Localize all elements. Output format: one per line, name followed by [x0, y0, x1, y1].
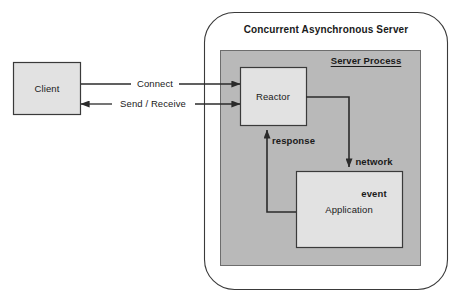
client-label: Client — [35, 84, 60, 95]
diagram-title: Concurrent Asynchronous Server — [244, 24, 409, 35]
reactor-label: Reactor — [256, 92, 290, 103]
send-receive-edge-label: Send / Receive — [120, 99, 186, 110]
connect-edge-label: Connect — [137, 79, 173, 90]
server-process-label: Server Process — [331, 56, 402, 67]
network-event-edge-label-line1: network — [355, 157, 392, 168]
diagram-canvas: Concurrent Asynchronous Server Server Pr… — [0, 0, 461, 305]
response-edge-label: response — [272, 136, 315, 147]
network-event-edge-label: network event — [355, 136, 392, 221]
network-event-edge-label-line2: event — [355, 189, 392, 200]
